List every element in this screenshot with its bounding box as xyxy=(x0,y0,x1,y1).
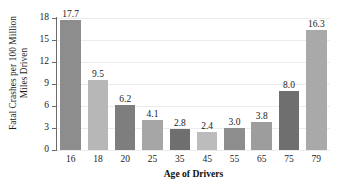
bar[interactable] xyxy=(224,128,245,150)
y-axis-tick-mark xyxy=(52,18,57,19)
x-axis-tick-label: 25 xyxy=(139,154,166,165)
bar[interactable] xyxy=(170,129,191,150)
y-axis-tick-mark xyxy=(52,84,57,85)
bar-slot: 2.4 xyxy=(194,18,221,150)
bar-slot: 2.8 xyxy=(166,18,193,150)
x-axis-tick-label: 20 xyxy=(112,154,139,165)
bar-slot: 17.7 xyxy=(57,18,84,150)
y-axis-tick-mark xyxy=(52,62,57,63)
y-axis-tick-mark xyxy=(52,150,57,151)
bar-slot: 3.0 xyxy=(221,18,248,150)
bar-slot: 9.5 xyxy=(84,18,111,150)
bar-value-label: 3.8 xyxy=(248,111,275,121)
bar-value-label: 6.2 xyxy=(112,94,139,104)
bar[interactable] xyxy=(251,122,272,150)
bar[interactable] xyxy=(306,30,327,150)
x-axis-tick-label: 55 xyxy=(221,154,248,165)
bar-slot: 3.8 xyxy=(248,18,275,150)
bar-value-label: 4.1 xyxy=(139,109,166,119)
bar-value-label: 2.4 xyxy=(194,121,221,131)
y-axis-tick-label: 18 xyxy=(3,13,49,23)
y-axis-tick-label: 3 xyxy=(3,123,49,133)
x-axis-tick-label: 45 xyxy=(194,154,221,165)
y-axis-tick-labels: 0369121518 xyxy=(0,0,52,185)
x-axis-tick-label: 79 xyxy=(303,154,330,165)
gridline xyxy=(57,150,330,151)
bar[interactable] xyxy=(279,91,300,150)
bar-slot: 4.1 xyxy=(139,18,166,150)
bar-value-label: 2.8 xyxy=(166,118,193,128)
y-axis-tick-label: 9 xyxy=(3,79,49,89)
y-axis-tick-mark xyxy=(52,40,57,41)
y-axis-tick-label: 6 xyxy=(3,101,49,111)
bar-slot: 8.0 xyxy=(275,18,302,150)
y-axis-tick-label: 12 xyxy=(3,57,49,67)
plot-area: 17.79.56.24.12.82.43.03.88.016.3 xyxy=(57,18,330,150)
bar[interactable] xyxy=(142,120,163,150)
bar-value-label: 8.0 xyxy=(275,80,302,90)
bar-value-label: 9.5 xyxy=(84,69,111,79)
bar-value-label: 3.0 xyxy=(221,117,248,127)
bar[interactable] xyxy=(88,80,109,150)
bar-chart-screenshot: Fatal Crashes per 100 Million Miles Driv… xyxy=(0,0,348,185)
bar-slot: 6.2 xyxy=(112,18,139,150)
bar[interactable] xyxy=(115,105,136,150)
bar-slot: 16.3 xyxy=(303,18,330,150)
x-axis-tick-label: 16 xyxy=(57,154,84,165)
x-axis-title: Age of Drivers xyxy=(57,168,330,179)
bar-value-label: 17.7 xyxy=(57,9,84,19)
y-axis-tick-mark xyxy=(52,128,57,129)
bar[interactable] xyxy=(197,132,218,150)
y-axis-tick-label: 0 xyxy=(3,145,49,155)
x-axis-tick-label: 65 xyxy=(248,154,275,165)
bar[interactable] xyxy=(60,20,81,150)
x-axis-tick-label: 35 xyxy=(166,154,193,165)
y-axis-tick-label: 15 xyxy=(3,35,49,45)
y-axis-tick-mark xyxy=(52,106,57,107)
bar-value-label: 16.3 xyxy=(303,19,330,29)
x-axis-tick-label: 18 xyxy=(84,154,111,165)
x-axis-tick-label: 75 xyxy=(275,154,302,165)
